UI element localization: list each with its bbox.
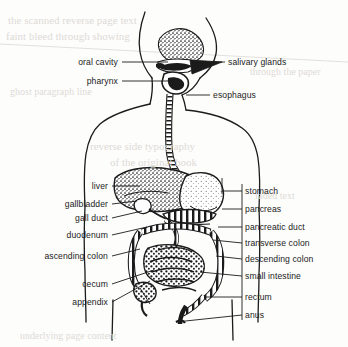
label-esophagus: esophagus (213, 90, 256, 100)
label-anus: anus (245, 310, 264, 320)
label-gallbladder: gallbladder (65, 199, 108, 209)
label-descending-colon: descending colon (245, 254, 314, 264)
label-small-intestine: small intestine (245, 271, 301, 281)
label-oral-cavity: oral cavity (78, 57, 118, 67)
label-appendix: appendix (72, 297, 108, 307)
label-rectum: rectum (245, 292, 272, 302)
label-salivary-glands: salivary glands (228, 57, 286, 67)
digestive-system-diagram: the scanned reverse page textfaint bleed… (0, 0, 348, 347)
label-transverse-colon: transverse colon (245, 238, 310, 248)
label-pharynx: pharynx (87, 76, 118, 86)
label-pancreatic-duct: pancreatic duct (245, 222, 305, 232)
label-duodenum: duodenum (67, 230, 108, 240)
label-liver: liver (92, 181, 108, 191)
cecum-shape (134, 282, 156, 302)
label-pancreas: pancreas (245, 204, 281, 214)
label-gall-duct: gall duct (75, 213, 108, 223)
label-ascending-colon: ascending colon (44, 251, 108, 261)
diagram-canvas (0, 0, 348, 347)
label-cecum: cecum (82, 279, 108, 289)
label-stomach: stomach (245, 186, 278, 196)
pancreas-shape (163, 210, 216, 224)
